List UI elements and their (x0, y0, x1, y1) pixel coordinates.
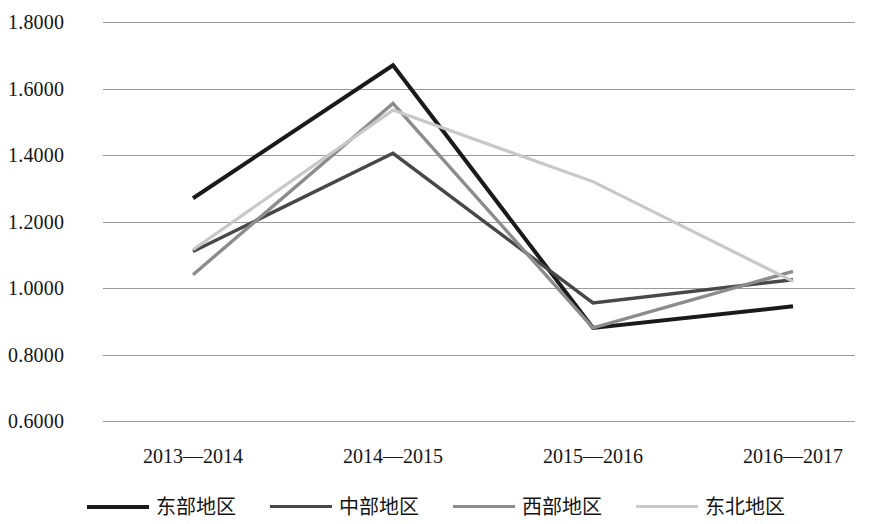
x-tick-label: 2015—2016 (543, 443, 643, 469)
gridline (103, 421, 855, 422)
series-lines (103, 22, 855, 421)
legend-swatch (270, 505, 332, 508)
y-tick-label: 0.8000 (8, 345, 96, 365)
x-tick-label: 2016—2017 (743, 443, 843, 469)
x-axis: 2013—20142014—20152015—20162016—2017 (103, 443, 855, 477)
y-axis: 0.60000.80001.00001.20001.40001.60001.80… (8, 0, 96, 524)
legend-item[interactable]: 西部地区 (453, 496, 602, 518)
chart-legend: 东部地区中部地区西部地区东北地区 (0, 489, 872, 524)
legend-swatch (87, 505, 149, 509)
legend-item[interactable]: 中部地区 (270, 496, 419, 518)
legend-label: 东北地区 (705, 496, 785, 518)
y-tick-label: 1.2000 (8, 212, 96, 232)
plot-area (103, 22, 855, 421)
line-chart: 0.60000.80001.00001.20001.40001.60001.80… (0, 0, 872, 524)
x-tick-label: 2014—2015 (343, 443, 443, 469)
series-line (193, 153, 793, 303)
legend-swatch (453, 505, 515, 508)
legend-label: 西部地区 (522, 496, 602, 518)
legend-item[interactable]: 东部地区 (87, 496, 236, 518)
y-tick-label: 1.8000 (8, 12, 96, 32)
y-tick-label: 1.4000 (8, 145, 96, 165)
y-tick-label: 0.6000 (8, 411, 96, 431)
legend-label: 东部地区 (156, 496, 236, 518)
y-tick-label: 1.6000 (8, 79, 96, 99)
legend-label: 中部地区 (339, 496, 419, 518)
x-tick-label: 2013—2014 (143, 443, 243, 469)
legend-item[interactable]: 东北地区 (636, 496, 785, 518)
y-tick-label: 1.0000 (8, 278, 96, 298)
legend-swatch (636, 505, 698, 508)
